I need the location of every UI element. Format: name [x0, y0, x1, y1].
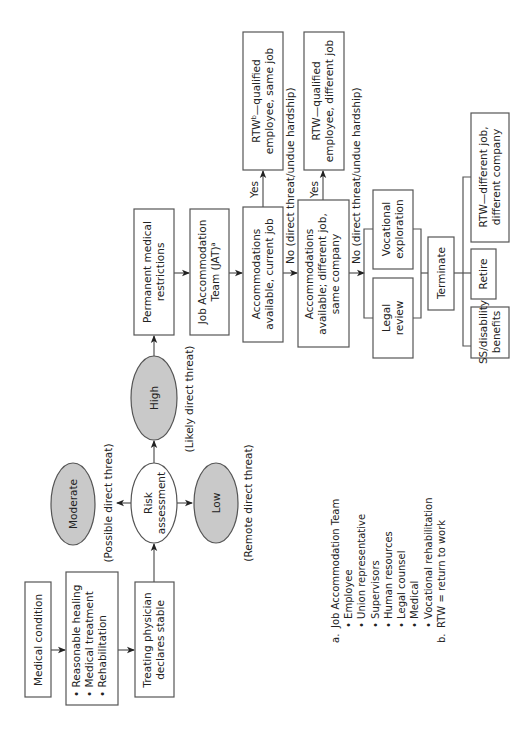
footnote-a-item: • Supervisors: [370, 560, 381, 628]
node-moderate: Moderate: [51, 463, 95, 545]
svg-text:Job Accommodation: Job Accommodation: [196, 220, 208, 326]
svg-text:RTW—qualified: RTW—qualified: [310, 61, 322, 140]
svg-text:benefits: benefits: [490, 311, 502, 353]
footnote-a-item: • Legal counsel: [396, 551, 407, 629]
node-treating-physician: Treating physician declares stable: [135, 582, 174, 697]
label-remote-threat: (Remote direct threat): [242, 444, 254, 561]
node-accom-current: Accommodations available, current job: [243, 207, 283, 342]
footnote-a-item: • Human resources: [383, 531, 394, 628]
svg-text:Permanent medical: Permanent medical: [141, 221, 153, 323]
node-medical-condition: Medical condition: [25, 582, 51, 697]
svg-text:Accommodations: Accommodations: [250, 229, 262, 320]
footnotes: a. Job Accommodation Team • Employee • U…: [330, 497, 447, 643]
svg-text:different company: different company: [490, 129, 502, 225]
svg-text:Terminate: Terminate: [435, 247, 447, 300]
label-yes-2: Yes: [308, 181, 320, 199]
footnote-a-item: • Employee: [343, 569, 354, 628]
svg-text:Accommodations: Accommodations: [303, 229, 315, 320]
footnote-a-marker: a.: [330, 634, 341, 643]
svg-text:RTWb—qualified: RTWb—qualified: [250, 59, 262, 142]
label-no-2: No (direct threat/undue hardship): [350, 87, 362, 264]
node-rtw-same-job: RTWb—qualified employee, same job: [243, 32, 283, 170]
node-terminate: Terminate: [428, 237, 454, 310]
svg-text:available; different job,: available; different job,: [316, 213, 328, 335]
node-legal-review: Legal review: [373, 278, 413, 358]
node-jat: Job Accommodation Team (JAT)a: [190, 209, 229, 335]
svg-text:same company: same company: [329, 234, 341, 314]
svg-text:SS/disability: SS/disability: [477, 300, 489, 364]
label-possible-threat: (Possible direct threat): [102, 443, 114, 562]
footnote-a-item: • Vocational rehabilitation: [423, 497, 434, 628]
node-ss-disability: SS/disability benefits: [471, 300, 509, 364]
svg-text:available, current job: available, current job: [263, 218, 275, 330]
svg-text:restrictions: restrictions: [154, 243, 166, 302]
label-likely-threat: (Likely direct threat): [183, 346, 195, 453]
svg-text:Retire: Retire: [477, 259, 489, 290]
svg-text:RTW—different job,: RTW—different job,: [477, 126, 489, 227]
node-retire: Retire: [471, 249, 496, 299]
svg-text:employee, same job: employee, same job: [263, 47, 275, 154]
svg-text:Low: Low: [210, 492, 222, 513]
node-accom-different: Accommodations available; different job,…: [298, 200, 349, 347]
svg-text:employee, different job: employee, different job: [323, 39, 335, 162]
svg-text:Medical condition: Medical condition: [32, 594, 44, 686]
svg-text:declares stable: declares stable: [154, 600, 166, 680]
svg-text:Team (JAT)a: Team (JAT)a: [209, 243, 221, 303]
svg-text:exploration: exploration: [393, 199, 405, 258]
node-rtw-different-company: RTW—different job, different company: [471, 113, 509, 242]
treatment-item: • Reasonable healing: [70, 585, 82, 697]
svg-text:Treating physician: Treating physician: [141, 592, 153, 688]
svg-text:High: High: [148, 386, 160, 410]
svg-text:Legal: Legal: [380, 304, 392, 332]
flowchart: Medical condition • Reasonable healing •…: [0, 0, 521, 748]
svg-text:assessment: assessment: [155, 472, 167, 534]
node-permanent-restrictions: Permanent medical restrictions: [134, 209, 174, 335]
footnote-b-marker: b.: [436, 633, 447, 643]
footnote-a-item: • Union representative: [356, 514, 367, 628]
node-high: High: [131, 356, 177, 440]
treatment-item: • Medical treatment: [83, 591, 95, 697]
label-no-1: No (direct threat/undue hardship): [284, 87, 296, 264]
footnote-a-title: Job Accommodation Team: [330, 499, 341, 629]
svg-text:Vocational: Vocational: [380, 202, 392, 256]
footnote-b-text: RTW = return to work: [436, 520, 447, 628]
node-rtw-different-job: RTW—qualified employee, different job: [304, 32, 344, 170]
node-low: Low: [194, 463, 238, 543]
footnote-a-item: • Medical: [409, 581, 420, 628]
svg-text:Moderate: Moderate: [67, 479, 79, 529]
node-treatment-list: • Reasonable healing • Medical treatment…: [66, 572, 118, 705]
svg-text:review: review: [393, 300, 405, 335]
node-vocational-exploration: Vocational exploration: [373, 190, 413, 269]
treatment-item: • Rehabilitation: [96, 615, 108, 697]
node-risk-assessment: Risk assessment: [131, 463, 177, 543]
svg-text:Risk: Risk: [142, 491, 154, 514]
label-yes-1: Yes: [248, 181, 260, 199]
